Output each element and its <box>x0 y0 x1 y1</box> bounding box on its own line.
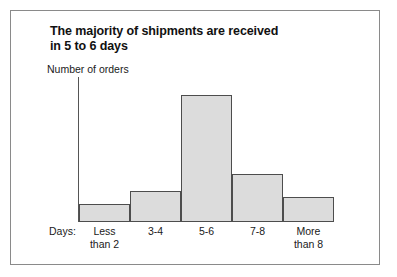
x-axis-labels: Less than 2 3-4 5-6 7-8 More than 8 <box>79 225 334 261</box>
x-label-line-1: 3-4 <box>130 225 181 238</box>
x-axis-prefix-label: Days: <box>49 225 76 238</box>
bar-more-than-8 <box>283 197 334 222</box>
x-label-line-1: 5-6 <box>181 225 232 238</box>
bar-3-4 <box>130 191 181 222</box>
x-label-3-4: 3-4 <box>130 225 181 238</box>
x-label-less-than-2: Less than 2 <box>79 225 130 251</box>
chart-title-line-2: in 5 to 6 days <box>50 39 350 54</box>
x-label-line-1: Less <box>79 225 130 238</box>
chart-title: The majority of shipments are received i… <box>50 24 350 54</box>
x-label-line-2: than 2 <box>79 238 130 251</box>
x-label-line-1: 7-8 <box>232 225 283 238</box>
x-label-5-6: 5-6 <box>181 225 232 238</box>
bar-5-6 <box>181 95 232 222</box>
chart-title-line-1: The majority of shipments are received <box>50 24 350 39</box>
x-label-more-than-8: More than 8 <box>283 225 334 251</box>
y-axis-label: Number of orders <box>47 63 129 75</box>
bar-less-than-2 <box>79 204 130 222</box>
x-label-line-2: than 8 <box>283 238 334 251</box>
plot-area <box>79 82 334 222</box>
x-label-line-1: More <box>283 225 334 238</box>
chart-figure: The majority of shipments are received i… <box>0 0 397 277</box>
x-label-7-8: 7-8 <box>232 225 283 238</box>
bar-7-8 <box>232 174 283 222</box>
